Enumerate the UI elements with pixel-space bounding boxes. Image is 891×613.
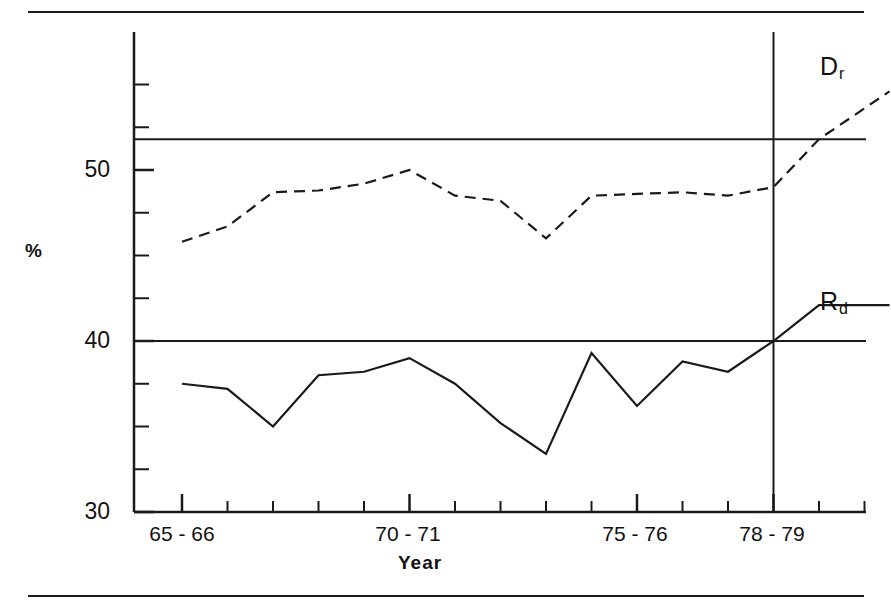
axis-ticks-group <box>134 85 865 513</box>
y-tick-label-50: 50 <box>54 156 110 183</box>
series-label-dr-sub: r <box>839 65 844 82</box>
y-axis-title: % <box>25 240 42 262</box>
series-label-dr: Dr <box>820 52 843 81</box>
series-line-dr <box>182 91 890 241</box>
x-tick-label-75-76: 75 - 76 <box>575 522 695 546</box>
x-tick-label-78-79: 78 - 79 <box>712 522 832 546</box>
y-tick-label-30: 30 <box>54 498 110 525</box>
series-label-rd-base: R <box>820 287 838 315</box>
series-label-rd: Rd <box>820 287 847 316</box>
series-line-rd <box>182 305 890 454</box>
series-label-rd-sub: d <box>839 300 848 317</box>
series-label-dr-base: D <box>820 52 838 80</box>
y-tick-label-40: 40 <box>54 327 110 354</box>
reference-lines-group <box>134 32 866 512</box>
data-series-group <box>182 91 890 454</box>
x-axis-title: Year <box>398 552 442 574</box>
figure-container: % Year 50 40 30 65 - 66 70 - 71 75 - 76 … <box>0 0 891 613</box>
axis-lines-group <box>134 32 866 512</box>
x-tick-label-70-71: 70 - 71 <box>348 522 468 546</box>
x-tick-label-65-66: 65 - 66 <box>122 522 242 546</box>
